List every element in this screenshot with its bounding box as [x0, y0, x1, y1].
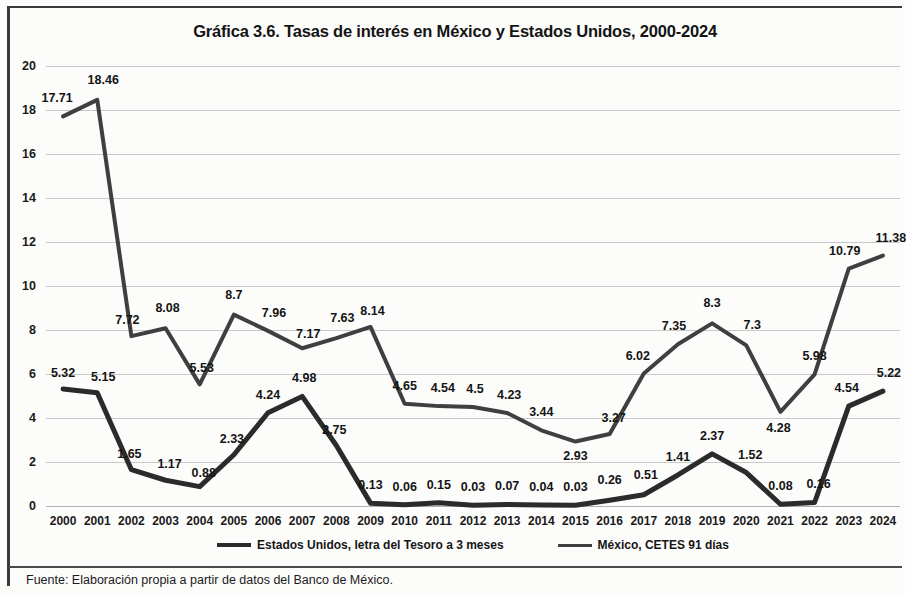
data-point-label: 0.16	[806, 477, 830, 491]
page-title: Gráfica 3.6. Tasas de interés en México …	[40, 22, 870, 41]
data-point-label: 4.23	[497, 388, 521, 402]
data-point-label: 0.07	[495, 479, 519, 493]
x-axis-tick-label: 2017	[630, 514, 657, 528]
data-point-label: 11.38	[876, 231, 906, 245]
x-axis-tick-label: 2022	[801, 514, 828, 528]
data-point-label: 4.54	[431, 381, 455, 395]
data-point-label: 0.06	[393, 480, 417, 494]
data-point-label: 1.65	[117, 447, 141, 461]
x-axis-tick-label: 2014	[528, 514, 555, 528]
legend-item[interactable]: México, CETES 91 días	[558, 538, 729, 552]
y-axis-tick-label: 18	[2, 103, 36, 117]
data-point-label: 7.63	[330, 311, 354, 325]
x-axis-tick-label: 2011	[426, 514, 452, 528]
data-point-label: 7.96	[262, 306, 286, 320]
x-axis-tick-label: 2005	[221, 514, 248, 528]
data-point-label: 4.98	[292, 371, 316, 385]
x-axis-tick-label: 2009	[357, 514, 384, 528]
x-axis-tick-label: 2021	[767, 514, 794, 528]
data-point-label: 5.98	[802, 349, 826, 363]
data-point-label: 6.02	[626, 349, 650, 363]
data-point-label: 2.75	[322, 423, 346, 437]
x-axis-tick-label: 2008	[323, 514, 350, 528]
data-point-label: 0.51	[634, 468, 658, 482]
x-axis-tick-label: 2004	[186, 514, 213, 528]
legend-item[interactable]: Estados Unidos, letra del Tesoro a 3 mes…	[217, 538, 504, 552]
data-point-label: 2.93	[563, 449, 587, 463]
data-point-label: 5.22	[877, 366, 901, 380]
data-point-label: 3.27	[601, 411, 625, 425]
x-axis-tick-label: 2023	[835, 514, 862, 528]
series-lines	[46, 66, 900, 506]
data-point-label: 18.46	[88, 73, 119, 87]
data-point-label: 5.32	[51, 366, 75, 380]
data-point-label: 7.17	[296, 327, 320, 341]
data-point-label: 4.24	[256, 388, 280, 402]
y-axis-tick-label: 14	[2, 191, 36, 205]
page-border-top	[9, 6, 902, 8]
data-point-label: 0.26	[597, 473, 621, 487]
data-point-label: 4.54	[835, 381, 859, 395]
x-axis-tick-label: 2007	[289, 514, 316, 528]
data-point-label: 3.44	[529, 405, 553, 419]
x-axis-tick-label: 2012	[460, 514, 487, 528]
data-point-label: 17.71	[41, 91, 72, 105]
data-point-label: 8.08	[155, 301, 179, 315]
data-point-label: 0.13	[358, 478, 382, 492]
data-point-label: 8.3	[703, 296, 720, 310]
y-axis-tick-label: 2	[2, 455, 36, 469]
x-axis-tick-label: 2018	[665, 514, 692, 528]
x-axis-tick-label: 2002	[118, 514, 145, 528]
data-point-label: 5.53	[190, 361, 214, 375]
data-point-label: 4.65	[393, 379, 417, 393]
legend-label: Estados Unidos, letra del Tesoro a 3 mes…	[257, 538, 504, 552]
y-axis-tick-label: 10	[2, 279, 36, 293]
x-axis-tick-label: 2001	[84, 514, 111, 528]
data-point-label: 2.37	[700, 429, 724, 443]
data-point-label: 4.28	[766, 421, 790, 435]
data-point-label: 1.52	[738, 448, 762, 462]
y-axis-tick-label: 0	[2, 499, 36, 513]
x-axis-tick-label: 2020	[733, 514, 760, 528]
data-point-label: 1.17	[157, 457, 181, 471]
plot-area: 02468101214161820 2000200120022003200420…	[46, 66, 900, 506]
x-axis-tick-label: 2013	[494, 514, 521, 528]
data-point-label: 0.03	[461, 480, 485, 494]
x-axis-tick-label: 2015	[562, 514, 589, 528]
x-axis-tick-label: 2024	[870, 514, 897, 528]
data-point-label: 0.08	[768, 479, 792, 493]
data-point-label: 0.04	[529, 480, 553, 494]
y-axis-tick-label: 12	[2, 235, 36, 249]
data-point-label: 0.88	[192, 466, 216, 480]
x-axis-tick-label: 2000	[50, 514, 77, 528]
x-axis-tick-label: 2016	[596, 514, 623, 528]
data-point-label: 7.72	[115, 313, 139, 327]
data-point-label: 5.15	[91, 370, 115, 384]
data-point-label: 4.5	[466, 382, 483, 396]
source-note: Fuente: Elaboración propia a partir de d…	[26, 573, 393, 587]
y-axis-tick-label: 16	[2, 147, 36, 161]
source-divider	[9, 566, 902, 568]
legend-label: México, CETES 91 días	[598, 538, 729, 552]
data-point-label: 10.79	[829, 244, 860, 258]
y-axis-tick-label: 4	[2, 411, 36, 425]
data-point-label: 8.14	[360, 304, 384, 318]
data-point-label: 7.35	[662, 319, 686, 333]
x-axis-tick-label: 2006	[255, 514, 282, 528]
data-point-label: 0.15	[427, 478, 451, 492]
y-axis-tick-label: 20	[2, 59, 36, 73]
x-axis-tick-label: 2003	[152, 514, 179, 528]
data-point-label: 8.7	[225, 288, 242, 302]
data-point-label: 1.41	[666, 450, 690, 464]
legend-swatch-icon	[217, 543, 251, 547]
x-axis-tick-label: 2010	[391, 514, 418, 528]
y-axis-tick-label: 8	[2, 323, 36, 337]
data-point-label: 0.03	[563, 480, 587, 494]
legend-swatch-icon	[558, 544, 592, 547]
data-point-label: 2.33	[220, 432, 244, 446]
x-axis-tick-label: 2019	[699, 514, 726, 528]
y-axis-tick-label: 6	[2, 367, 36, 381]
data-point-label: 7.3	[744, 318, 761, 332]
chart-legend: Estados Unidos, letra del Tesoro a 3 mes…	[46, 538, 900, 552]
